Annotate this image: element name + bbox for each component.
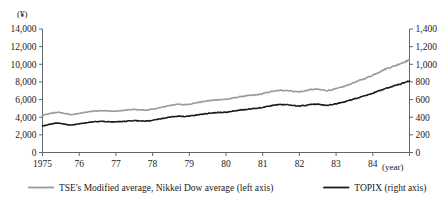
right-tick-label: 800: [416, 77, 431, 87]
stock-index-chart: 02,0004,0006,0008,00010,00012,00014,000 …: [0, 0, 440, 207]
series-lines: [43, 59, 410, 125]
chart-legend: TSE's Modified average, Nikkei Dow avera…: [28, 183, 426, 194]
right-tick-label: 1,200: [416, 42, 438, 52]
x-tick-label: 78: [148, 159, 158, 169]
x-tick-label: 81: [258, 159, 268, 169]
left-tick-label: 12,000: [10, 42, 36, 52]
x-axis-group: 1975767778798081828384 (year): [33, 153, 410, 173]
x-tick-label: 77: [111, 159, 121, 169]
x-tick-label: 1975: [33, 159, 52, 169]
x-tick-label: 83: [331, 159, 341, 169]
right-tick-label: 200: [416, 130, 431, 140]
x-axis-unit-label: (year): [382, 162, 403, 172]
left-axis-unit-label: (¥): [17, 9, 28, 19]
x-tick-label: 82: [295, 159, 305, 169]
left-tick-label: 0: [32, 148, 37, 158]
left-tick-label: 6,000: [15, 95, 37, 105]
right-tick-label: 400: [416, 113, 431, 123]
legend-label-1: TOPIX (right axis): [354, 183, 426, 194]
left-axis-group: 02,0004,0006,0008,00010,00012,00014,000 …: [10, 9, 42, 158]
right-tick-label: 600: [416, 95, 431, 105]
left-tick-label: 14,000: [10, 24, 36, 34]
legend-label-0: TSE's Modified average, Nikkei Dow avera…: [59, 183, 273, 194]
right-tick-label: 1,000: [416, 60, 438, 70]
right-tick-label: 1,400: [416, 24, 438, 34]
right-tick-label: 0: [416, 148, 421, 158]
x-tick-label: 76: [74, 159, 84, 169]
right-axis-ticks: 02004006008001,0001,2001,400: [410, 24, 438, 158]
left-tick-label: 2,000: [15, 130, 37, 140]
x-tick-label: 79: [185, 159, 195, 169]
left-tick-label: 4,000: [15, 113, 37, 123]
right-axis-group: 02004006008001,0001,2001,400: [410, 24, 438, 158]
left-axis-ticks: 02,0004,0006,0008,00010,00012,00014,000: [10, 24, 42, 158]
series-line-topix: [43, 81, 410, 126]
chart-canvas: 02,0004,0006,0008,00010,00012,00014,000 …: [0, 0, 440, 207]
left-tick-label: 8,000: [15, 77, 37, 87]
series-line-nikkei: [43, 59, 410, 115]
x-axis-ticks: 1975767778798081828384: [33, 153, 410, 169]
left-tick-label: 10,000: [10, 60, 36, 70]
x-tick-label: 80: [221, 159, 231, 169]
x-tick-label: 84: [368, 159, 378, 169]
